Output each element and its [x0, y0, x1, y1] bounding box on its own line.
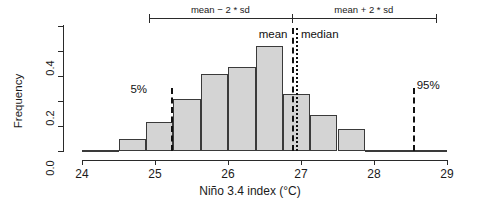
reference-label-p95: 95% [417, 79, 440, 91]
reference-label-median: median [301, 28, 339, 40]
histogram-bar [119, 139, 147, 152]
x-tick-24 [82, 160, 83, 165]
x-tick-28 [374, 160, 375, 165]
bracket-label-mean-plus-2sd: mean + 2 * sd [334, 4, 393, 15]
histogram-bar [310, 115, 337, 151]
y-tick-0.1 [58, 126, 63, 127]
histogram-figure: 0.0 0.2 0.4 Frequency 24 25 26 27 28 29 … [0, 0, 500, 211]
histogram-bar [365, 150, 447, 152]
y-tick-0.4 [58, 51, 63, 52]
plot-area: 0.0 0.2 0.4 Frequency 24 25 26 27 28 29 … [0, 0, 500, 211]
histogram-bar [338, 129, 366, 152]
reference-line-p95 [413, 88, 415, 151]
x-axis-line [82, 160, 447, 161]
bracket-line-mean-minus-2sd [149, 18, 291, 19]
x-tick-25 [155, 160, 156, 165]
bracket-cap-mean-plus-2sd-0 [292, 14, 293, 23]
x-tick-27 [301, 160, 302, 165]
x-tick-label-28: 28 [367, 167, 380, 181]
reference-line-p05 [171, 88, 173, 151]
reference-line-median [296, 28, 298, 151]
histogram-bar [146, 122, 173, 151]
reference-label-mean: mean [0, 28, 288, 40]
x-tick-label-25: 25 [148, 167, 161, 181]
histogram-bar [228, 67, 256, 151]
histogram-bar [173, 99, 201, 152]
y-axis-title: Frequency [12, 56, 24, 146]
x-axis-title: Niño 3.4 index (°C) [0, 184, 500, 198]
histogram-bar [82, 150, 119, 152]
y-tick-0.2 [58, 101, 63, 102]
reference-label-p05: 5% [0, 83, 147, 95]
y-tick-label-0: 0.0 [44, 152, 56, 184]
x-tick-label-27: 27 [294, 167, 307, 181]
y-tick-0.5 [58, 26, 63, 27]
histogram-bar [201, 74, 228, 152]
bracket-cap-mean-minus-2sd-0 [149, 14, 150, 23]
x-tick-label-24: 24 [75, 167, 88, 181]
bracket-line-mean-plus-2sd [292, 18, 437, 19]
y-tick-0.3 [58, 76, 63, 77]
x-tick-label-29: 29 [440, 167, 453, 181]
x-tick-29 [447, 160, 448, 165]
histogram-bar [256, 46, 283, 151]
bracket-cap-mean-plus-2sd-1 [436, 14, 437, 23]
y-tick-0.0 [58, 151, 63, 152]
y-tick-label-1: 0.2 [44, 102, 56, 134]
bracket-label-mean-minus-2sd: mean − 2 * sd [191, 4, 250, 15]
x-tick-label-26: 26 [221, 167, 234, 181]
x-tick-26 [228, 160, 229, 165]
y-tick-label-2: 0.4 [44, 52, 56, 84]
reference-line-mean [292, 28, 294, 151]
